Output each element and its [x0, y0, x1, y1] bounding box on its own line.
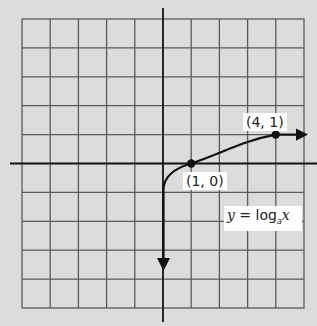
graph — [0, 0, 317, 326]
point-label-1-0: (1, 0) — [183, 172, 227, 190]
point-label-4-1: (4, 1) — [243, 113, 287, 131]
arrow-right-icon — [296, 129, 308, 141]
point-1-0 — [187, 159, 195, 167]
function-label-y: y — [227, 207, 235, 223]
point-4-1 — [272, 130, 280, 138]
function-label-log: = log — [235, 207, 277, 223]
function-label-x: x — [282, 207, 290, 223]
axes — [10, 8, 317, 322]
function-label: y = logax — [224, 206, 302, 231]
arrow-down-icon — [157, 258, 170, 271]
